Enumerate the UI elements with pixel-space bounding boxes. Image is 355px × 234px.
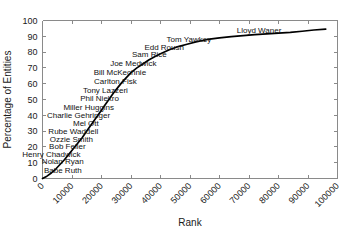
y-tick-label: 90 [27, 32, 37, 42]
x-tick-label: 100000 [313, 181, 341, 209]
x-tick-label: 70000 [228, 181, 253, 206]
x-tick-label: 40000 [139, 181, 164, 206]
x-axis-title: Rank [178, 217, 202, 228]
y-tick-label: 30 [27, 126, 37, 136]
annotation-label: Babe Ruth [44, 166, 82, 175]
x-tick-label: 90000 [287, 181, 312, 206]
annotation-label: Bill McKechnie [94, 68, 147, 77]
y-tick-label: 70 [27, 63, 37, 73]
x-tick-label: 50000 [169, 181, 194, 206]
x-tick-label: 10000 [51, 181, 76, 206]
annotation-label: Joe Medwick [110, 59, 157, 68]
y-tick-label: 100 [22, 16, 37, 26]
y-tick-label: 40 [27, 111, 37, 121]
y-tick-label: 10 [27, 158, 37, 168]
y-tick-label: 80 [27, 47, 37, 57]
x-tick-label: 60000 [198, 181, 223, 206]
x-tick-label: 30000 [110, 181, 135, 206]
annotation-label: Sam Rice [132, 50, 167, 59]
line-chart: 0102030405060708090100 01000020000300004… [0, 0, 355, 234]
annotation-label: Carlton Fisk [94, 77, 138, 86]
y-tick-label: 50 [27, 95, 37, 105]
annotation-label: Phil Niekro [80, 94, 119, 103]
x-tick-label: 20000 [80, 181, 105, 206]
x-tick-label: 0 [35, 181, 46, 192]
x-tick-label: 80000 [257, 181, 282, 206]
y-axis-title: Percentage of Entities [2, 51, 13, 149]
chart-container: 0102030405060708090100 01000020000300004… [0, 0, 355, 234]
annotation-label: Nolan Ryan [42, 157, 84, 166]
annotation-labels-group: Lloyd WanerTom YawkeyEdd RoushSam RiceJo… [22, 26, 281, 176]
y-tick-label: 60 [27, 79, 37, 89]
annotation-label: Lloyd Waner [237, 26, 282, 35]
